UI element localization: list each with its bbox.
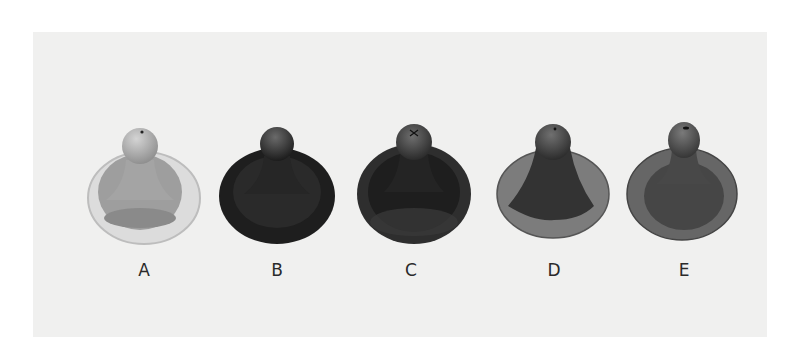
label-c: C — [396, 260, 426, 280]
nipple-d: D — [494, 114, 612, 246]
nipple-a: A — [86, 120, 202, 246]
label-a: A — [129, 260, 159, 280]
nipple-c: C — [356, 114, 474, 246]
nipple-b: B — [218, 118, 336, 246]
label-e: E — [669, 260, 699, 280]
nipple-b-image — [218, 118, 336, 246]
nipple-e-image — [626, 114, 742, 246]
nipple-d-image — [494, 114, 612, 246]
nipple-c-image — [356, 114, 474, 246]
label-d: D — [539, 260, 569, 280]
label-b: B — [262, 260, 292, 280]
nipple-a-image — [86, 120, 202, 246]
nipple-e: E — [626, 114, 742, 246]
